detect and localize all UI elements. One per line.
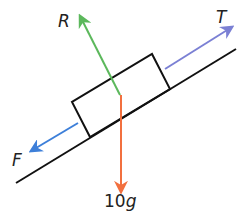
label-R: R <box>58 11 70 31</box>
tension-arrow <box>165 27 232 69</box>
diagram-canvas: R T F 10g <box>0 0 239 214</box>
label-F: F <box>12 150 22 170</box>
label-weight-number: 10 <box>104 191 126 211</box>
label-weight-var: g <box>126 191 137 211</box>
friction-arrow <box>31 123 78 151</box>
force-diagram: R T F 10g <box>0 0 239 214</box>
reaction-arrow <box>80 16 120 95</box>
label-T: T <box>216 7 228 27</box>
label-weight: 10g <box>104 191 137 211</box>
